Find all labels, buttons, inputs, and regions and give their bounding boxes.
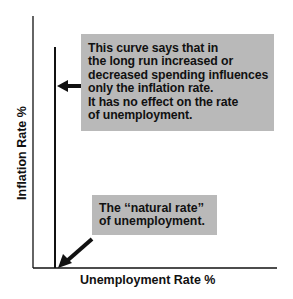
callout-line: This curve says that in: [88, 42, 274, 55]
y-axis-label: Inflation Rate %: [15, 106, 29, 200]
callout-line: decreased spending influences: [88, 69, 274, 82]
left-arrow-icon: [57, 80, 81, 92]
callout-line: of unemployment.: [99, 215, 217, 228]
x-axis-label: Unemployment Rate %: [80, 273, 215, 287]
diagonal-arrow-icon: [58, 239, 92, 268]
callout-line: of unemployment.: [88, 109, 274, 122]
callout-line: It has no effect on the rate: [88, 96, 274, 109]
long-run-callout: This curve says that in the long run inc…: [81, 34, 274, 131]
callout-line: The ‘‘natural rate’’: [99, 202, 217, 215]
callout-line: only the inflation rate.: [88, 82, 274, 95]
natural-rate-callout: The ‘‘natural rate’’ of unemployment.: [92, 195, 217, 235]
callout-line: the long run increased or: [88, 55, 274, 68]
